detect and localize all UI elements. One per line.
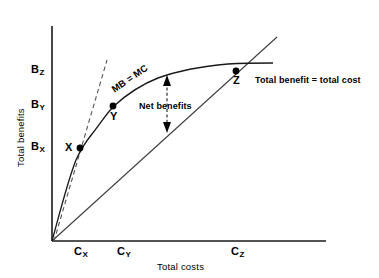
y-axis-title: Total benefits [16, 108, 26, 167]
y-tick-label-by: BY [31, 99, 45, 110]
y-tick-sub-bz: Z [40, 68, 45, 77]
net-benefits-arrow-head-down [163, 122, 171, 133]
total-benefit-curve [52, 63, 273, 241]
x-tick-sub-cx: X [83, 250, 89, 259]
chart-plot-area [0, 0, 379, 278]
y-tick-base-bx: B [31, 140, 39, 152]
x-axis-title: Total costs [157, 262, 204, 272]
net-benefits-label: Net benefits [139, 102, 192, 111]
data-point-label-z: Z [233, 75, 240, 86]
total-benefit-equals-total-cost-label: Total benefit = total cost [255, 76, 361, 85]
data-point-label-x: X [65, 142, 72, 153]
net-benefits-arrow-head-up [163, 75, 171, 86]
x-tick-base-cy: C [117, 245, 125, 257]
y-tick-label-bx: BX [31, 141, 45, 152]
chart-figure: Total benefits Total costs BZ BY BX CX C… [0, 0, 379, 278]
y-tick-sub-bx: X [40, 145, 46, 154]
total-benefit-equals-total-cost-line [52, 37, 277, 241]
y-tick-base-by: B [31, 98, 39, 110]
x-tick-base-cz: C [231, 245, 239, 257]
x-tick-label-cx: CX [74, 246, 88, 257]
data-point-y-marker [110, 103, 117, 110]
data-point-label-y: Y [110, 111, 117, 122]
data-point-x-marker [77, 145, 84, 152]
y-tick-label-bz: BZ [31, 64, 44, 75]
x-tick-base-cx: C [74, 245, 82, 257]
x-tick-sub-cz: Z [240, 250, 245, 259]
x-tick-label-cy: CY [117, 246, 131, 257]
y-tick-sub-by: Y [40, 103, 46, 112]
x-tick-label-cz: CZ [231, 246, 244, 257]
x-tick-sub-cy: Y [126, 250, 132, 259]
y-tick-base-bz: B [31, 63, 39, 75]
